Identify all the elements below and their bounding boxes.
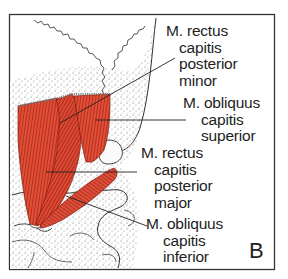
- anatomy-figure: M. rectus capitis posterior minor M. obl…: [0, 0, 288, 279]
- label-line: capitis: [141, 162, 213, 179]
- label-obliquus-capitis-inferior: M. obliquus capitis inferior: [146, 216, 223, 266]
- label-line: M. rectus: [166, 23, 238, 40]
- label-line: minor: [166, 73, 238, 90]
- label-line: capitis: [183, 112, 260, 129]
- label-line: M. obliquus: [146, 216, 223, 233]
- label-line: posterior: [166, 56, 238, 73]
- label-line: M. rectus: [141, 145, 213, 162]
- label-rectus-capitis-posterior-minor: M. rectus capitis posterior minor: [166, 23, 238, 89]
- label-line: posterior: [141, 178, 213, 195]
- label-rectus-capitis-posterior-major: M. rectus capitis posterior major: [141, 145, 213, 211]
- label-line: major: [141, 195, 213, 212]
- label-line: M. obliquus: [183, 95, 260, 112]
- panel-letter: B: [249, 240, 264, 262]
- label-line: capitis: [166, 40, 238, 57]
- label-line: capitis: [146, 233, 223, 250]
- label-obliquus-capitis-superior: M. obliquus capitis superior: [183, 95, 260, 145]
- label-line: superior: [183, 128, 260, 145]
- label-line: inferior: [146, 249, 223, 266]
